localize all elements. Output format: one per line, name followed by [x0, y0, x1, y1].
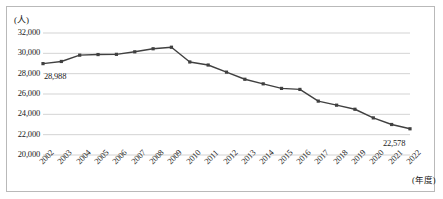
first-point-label: 28,988 [44, 71, 66, 81]
data-point-marker [335, 104, 338, 107]
data-point-marker [60, 60, 63, 63]
data-point-marker [115, 53, 118, 56]
data-point-marker [207, 63, 210, 66]
line-chart [0, 0, 443, 199]
y-axis-tick-label: 30,000 [4, 47, 40, 57]
y-axis-tick-label: 26,000 [4, 88, 40, 98]
chart-svg [0, 0, 443, 199]
data-point-marker [133, 50, 136, 53]
data-point-marker [96, 53, 99, 56]
last-point-label: 22,578 [383, 138, 405, 148]
data-point-marker [353, 108, 356, 111]
y-axis-tick-label: 28,000 [4, 68, 40, 78]
data-point-marker [152, 47, 155, 50]
data-point-marker [408, 127, 411, 130]
data-point-marker [262, 82, 265, 85]
y-axis-tick-label: 32,000 [4, 27, 40, 37]
y-axis-tick-label: 20,000 [4, 149, 40, 159]
data-point-marker [188, 60, 191, 63]
data-point-marker [41, 62, 44, 65]
y-axis-unit-label: (人) [14, 13, 29, 26]
data-point-marker [78, 54, 81, 57]
data-point-marker [390, 123, 393, 126]
data-point-marker [317, 100, 320, 103]
data-point-marker [243, 78, 246, 81]
data-point-marker [372, 116, 375, 119]
x-axis-unit-label: (年度) [412, 173, 436, 185]
data-point-marker [298, 88, 301, 91]
series-line [43, 47, 410, 129]
data-point-marker [170, 46, 173, 49]
data-point-marker [280, 87, 283, 90]
data-point-marker [225, 71, 228, 74]
y-axis-tick-label: 22,000 [4, 129, 40, 139]
y-axis-tick-label: 24,000 [4, 108, 40, 118]
